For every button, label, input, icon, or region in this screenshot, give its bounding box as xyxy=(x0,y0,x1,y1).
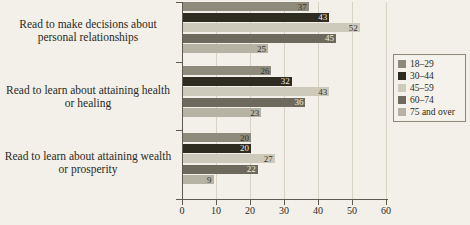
legend-swatch-icon xyxy=(398,60,406,68)
bar-value-label: 37 xyxy=(298,3,309,12)
bar-value-label: 26 xyxy=(260,67,271,76)
bar-value-label: 20 xyxy=(240,134,251,143)
bar-value-label: 27 xyxy=(264,155,275,164)
gridline-60 xyxy=(386,2,387,200)
bar-value-label: 9 xyxy=(207,176,214,185)
bar-chart: 37435245252632433623202027229 0102030405… xyxy=(0,0,470,225)
legend-label: 75 and over xyxy=(410,107,455,117)
x-axis-tick-label: 10 xyxy=(211,205,221,216)
bar xyxy=(183,23,360,32)
bar-value-label: 23 xyxy=(250,109,261,118)
legend-swatch-icon xyxy=(398,72,406,80)
x-axis-tick-label: 20 xyxy=(245,205,255,216)
legend: 18–2930–4445–5960–7475 and over xyxy=(393,54,466,122)
x-axis-tick-label: 40 xyxy=(313,205,323,216)
bar xyxy=(183,77,292,86)
legend-item[interactable]: 18–29 xyxy=(398,58,462,70)
legend-label: 60–74 xyxy=(410,95,434,105)
bar-value-label: 22 xyxy=(247,165,258,174)
category-label: Read to learn about attaining health or … xyxy=(0,84,176,110)
legend-item[interactable]: 45–59 xyxy=(398,82,462,94)
bar xyxy=(183,66,271,75)
bar xyxy=(183,34,336,43)
x-axis-tick-label: 60 xyxy=(381,205,391,216)
y-axis-tick xyxy=(176,2,183,3)
x-axis-tick-label: 0 xyxy=(180,205,185,216)
bar xyxy=(183,13,329,22)
bar-value-label: 25 xyxy=(257,45,268,54)
category-label: Read to learn about attaining wealth or … xyxy=(0,150,176,176)
legend-label: 18–29 xyxy=(410,59,434,69)
x-axis-tick-label: 30 xyxy=(279,205,289,216)
legend-swatch-icon xyxy=(398,96,406,104)
category-label: Read to make decisions about personal re… xyxy=(0,18,176,44)
legend-swatch-icon xyxy=(398,84,406,92)
bar xyxy=(183,98,305,107)
legend-item[interactable]: 75 and over xyxy=(398,106,462,118)
bar xyxy=(183,2,309,11)
legend-swatch-icon xyxy=(398,108,406,116)
bar-value-label: 52 xyxy=(349,24,360,33)
y-axis-tick xyxy=(176,130,183,131)
x-axis-tick-label: 50 xyxy=(347,205,357,216)
plot-area: 37435245252632433623202027229 xyxy=(182,2,388,200)
bar-value-label: 20 xyxy=(240,144,251,153)
legend-item[interactable]: 30–44 xyxy=(398,70,462,82)
legend-label: 45–59 xyxy=(410,83,434,93)
y-axis-tick xyxy=(176,62,183,63)
bar-value-label: 32 xyxy=(281,77,292,86)
bar xyxy=(183,44,268,53)
y-axis-spine xyxy=(182,2,183,200)
legend-item[interactable]: 60–74 xyxy=(398,94,462,106)
bar-value-label: 43 xyxy=(318,88,329,97)
bar-value-label: 45 xyxy=(325,34,336,43)
legend-label: 30–44 xyxy=(410,71,434,81)
bar-value-label: 36 xyxy=(294,98,305,107)
bar xyxy=(183,87,329,96)
bar xyxy=(183,154,275,163)
bar-value-label: 43 xyxy=(318,13,329,22)
x-axis-spine xyxy=(182,199,388,200)
